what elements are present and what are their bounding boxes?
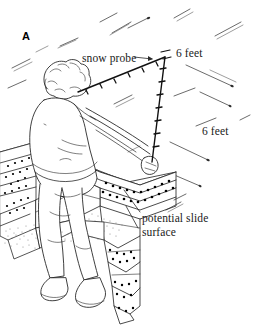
slide-surface-line-2: surface (142, 226, 208, 240)
slide-surface-line-1: potential slide (142, 212, 208, 224)
figure-illustration (0, 0, 255, 328)
pit-lower-grain-dots (109, 249, 137, 312)
label-snow-probe: snow probe (82, 52, 136, 66)
label-potential-slide-surface: potential slide surface (142, 212, 208, 239)
panel-letter-a: A (22, 30, 30, 42)
person-figure (30, 60, 158, 308)
snow-probe-figure: A snow probe 6 feet 6 feet potential sli… (0, 0, 255, 328)
label-six-feet-top: 6 feet (176, 47, 202, 61)
label-six-feet-right: 6 feet (202, 125, 228, 139)
snow-probe-tick-marks (86, 62, 166, 147)
